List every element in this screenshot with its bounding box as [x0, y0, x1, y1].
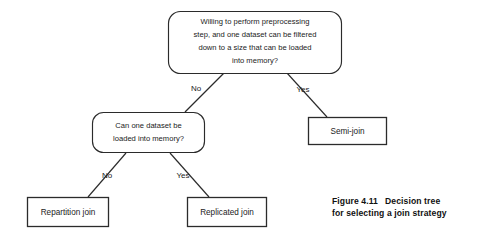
edge-label-decision2-yes: Yes — [176, 171, 189, 180]
node-decision2-line2: loaded into memory? — [113, 134, 184, 143]
node-decision2-line1: Can one dataset be — [115, 121, 181, 130]
figure-caption-text: Decision tree — [385, 196, 440, 206]
node-root-line1: Willing to perform preprocessing — [201, 17, 310, 26]
node-semi-join-label: Semi-join — [330, 127, 365, 136]
node-repartition-join-label: Repartition join — [41, 208, 96, 217]
node-root-line2: step, and one dataset can be filtered — [194, 30, 317, 39]
edge-root-to-semi-join — [287, 73, 327, 117]
edge-label-decision2-no: No — [102, 171, 113, 180]
node-replicated-join-label: Replicated join — [200, 208, 254, 217]
figure-caption-label: Figure 4.11 — [332, 196, 378, 206]
figure-caption: Figure 4.11Decision tree for selecting a… — [332, 196, 480, 219]
edge-label-root-no: No — [191, 84, 202, 93]
node-root-line3: down to a size that can be loaded — [198, 43, 311, 52]
edge-label-root-yes: Yes — [296, 85, 309, 94]
node-root-line4: into memory? — [232, 56, 278, 65]
node-decision2 — [93, 113, 205, 153]
figure-caption-line2: for selecting a join strategy — [332, 208, 447, 218]
